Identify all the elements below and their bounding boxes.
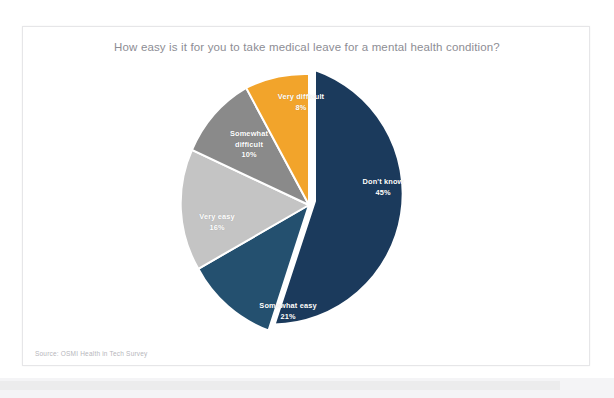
pie-chart-svg [178, 69, 448, 341]
screenshot-root: How easy is it for you to take medical l… [0, 0, 614, 398]
chart-card: How easy is it for you to take medical l… [22, 26, 590, 366]
pie-chart: Don't know 45% Somewhat easy 21% Very ea… [178, 69, 448, 341]
source-note: Source: OSMI Health in Tech Survey [35, 350, 148, 357]
bottom-band [0, 378, 614, 398]
bottom-band-inner [0, 381, 560, 390]
chart-title: How easy is it for you to take medical l… [23, 41, 591, 53]
